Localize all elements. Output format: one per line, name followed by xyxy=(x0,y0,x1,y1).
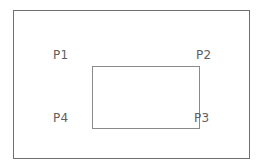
diagram-canvas: P1 P2 P3 P4 xyxy=(0,0,260,168)
outer-border xyxy=(13,10,250,159)
point-label-p2: P2 xyxy=(196,49,211,61)
point-label-p3: P3 xyxy=(194,112,209,124)
point-label-p1: P1 xyxy=(53,49,68,61)
point-label-p4: P4 xyxy=(53,112,68,124)
inner-rectangle xyxy=(92,66,200,129)
